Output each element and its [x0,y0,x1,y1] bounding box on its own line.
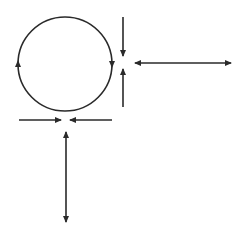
circulation-circle [15,17,115,111]
diagram-canvas [0,0,242,239]
circle-arrowhead-left-icon [15,60,21,67]
arrows-layer [19,17,231,222]
circle-arrowhead-right-icon [109,61,115,68]
circle-path [18,17,112,111]
